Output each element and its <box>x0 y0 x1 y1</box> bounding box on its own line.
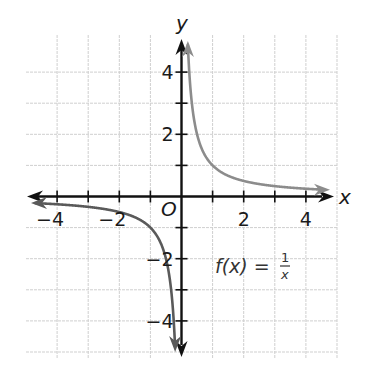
y-tick-label: −2 <box>145 248 173 270</box>
function-label-denominator: x <box>280 267 289 282</box>
y-tick-label: −4 <box>145 310 173 332</box>
rational-function-graph: y x O −4−22442−2−4 f(x) = 1 x <box>0 0 369 377</box>
curve-positive-branch <box>188 45 323 190</box>
x-tick-label: 4 <box>300 208 312 230</box>
function-label: f(x) = 1 x <box>215 250 290 282</box>
x-tick-label: 2 <box>238 208 250 230</box>
x-tick-label: −4 <box>36 208 64 230</box>
axes <box>27 39 334 357</box>
origin-label: O <box>161 197 177 221</box>
x-axis-label: x <box>338 185 351 209</box>
function-label-lhs: f(x) = <box>215 255 270 277</box>
x-tick-label: −2 <box>98 208 126 230</box>
y-tick-label: 2 <box>161 123 173 145</box>
y-axis-label: y <box>175 11 189 35</box>
function-label-numerator: 1 <box>281 250 289 265</box>
y-tick-label: 4 <box>161 61 173 83</box>
